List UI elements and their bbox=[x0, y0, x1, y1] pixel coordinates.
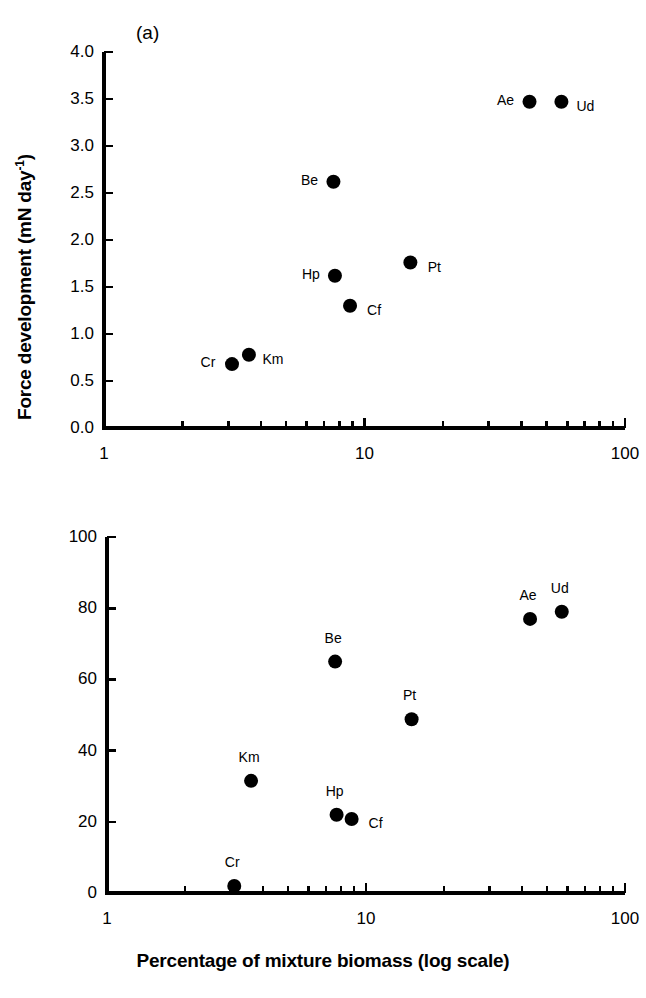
panel-a-plot-area bbox=[0, 0, 646, 490]
data-point-ae bbox=[523, 612, 537, 626]
x-axis-title: Percentage of mixture biomass (log scale… bbox=[0, 950, 646, 972]
panel-a-y-tick-label: 1.0 bbox=[0, 324, 94, 344]
data-point-km bbox=[244, 774, 258, 788]
data-point-ae bbox=[523, 95, 537, 109]
panel-a-y-tick-label: 1.5 bbox=[0, 277, 94, 297]
data-point-label-hp: Hp bbox=[326, 783, 344, 799]
data-point-cr bbox=[227, 879, 241, 893]
panel-b-x-tick-label: 10 bbox=[357, 909, 376, 929]
data-point-label-ae: Ae bbox=[497, 92, 514, 108]
panel-b-y-tick-label: 60 bbox=[0, 669, 97, 689]
panel-b-y-tick-label: 80 bbox=[0, 598, 97, 618]
data-point-label-km: Km bbox=[262, 351, 283, 367]
data-point-label-km: Km bbox=[239, 749, 260, 765]
data-point-be bbox=[326, 175, 340, 189]
data-point-label-hp: Hp bbox=[302, 266, 320, 282]
panel-b-y-tick-label: 20 bbox=[0, 812, 97, 832]
panel-a-y-tick-label: 0.0 bbox=[0, 418, 94, 438]
panel-a-x-tick-label: 100 bbox=[611, 444, 639, 464]
panel-a-x-tick-label: 10 bbox=[355, 444, 374, 464]
panel-b: (b) Percentage of windows 02040608010011… bbox=[0, 490, 646, 998]
data-point-cf bbox=[345, 812, 359, 826]
data-point-label-cr: Cr bbox=[201, 354, 216, 370]
data-point-label-ae: Ae bbox=[520, 587, 537, 603]
data-point-be bbox=[328, 655, 342, 669]
data-point-label-pt: Pt bbox=[428, 259, 441, 275]
panel-b-y-tick-label: 0 bbox=[0, 883, 97, 903]
data-point-label-cf: Cf bbox=[369, 815, 383, 831]
data-point-label-be: Be bbox=[325, 630, 342, 646]
data-point-cr bbox=[225, 357, 239, 371]
panel-a: (a) Force development (mN day-1) 0.00.51… bbox=[0, 0, 646, 490]
panel-b-y-tick-label: 40 bbox=[0, 741, 97, 761]
data-point-hp bbox=[328, 269, 342, 283]
panel-a-y-tick-label: 2.5 bbox=[0, 183, 94, 203]
data-point-label-ud: Ud bbox=[576, 98, 594, 114]
panel-a-y-tick-label: 3.0 bbox=[0, 136, 94, 156]
data-point-hp bbox=[330, 808, 344, 822]
data-point-ud bbox=[554, 95, 568, 109]
data-point-ud bbox=[555, 605, 569, 619]
data-point-km bbox=[242, 348, 256, 362]
data-point-cf bbox=[343, 299, 357, 313]
panel-a-y-tick-label: 3.5 bbox=[0, 89, 94, 109]
panel-a-x-tick-label: 1 bbox=[99, 444, 108, 464]
panel-b-y-tick-label: 100 bbox=[0, 527, 97, 547]
data-point-pt bbox=[405, 712, 419, 726]
panel-a-y-tick-label: 2.0 bbox=[0, 230, 94, 250]
data-point-label-be: Be bbox=[301, 172, 318, 188]
data-point-label-cr: Cr bbox=[225, 854, 240, 870]
data-point-label-ud: Ud bbox=[551, 580, 569, 596]
data-point-label-cf: Cf bbox=[367, 302, 381, 318]
panel-b-x-tick-label: 100 bbox=[611, 909, 639, 929]
panel-a-y-tick-label: 0.5 bbox=[0, 371, 94, 391]
data-point-pt bbox=[403, 256, 417, 270]
panel-a-y-tick-label: 4.0 bbox=[0, 42, 94, 62]
panel-b-x-tick-label: 1 bbox=[102, 909, 111, 929]
data-point-label-pt: Pt bbox=[403, 687, 416, 703]
figure-container: (a) Force development (mN day-1) 0.00.51… bbox=[0, 0, 646, 998]
